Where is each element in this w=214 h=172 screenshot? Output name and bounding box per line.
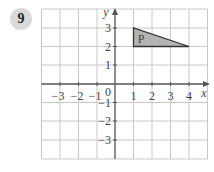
x-tick-label: −2 bbox=[71, 89, 84, 103]
y-tick-label: −2 bbox=[98, 114, 111, 128]
x-tick-label: 3 bbox=[168, 89, 174, 103]
y-tick-label: 1 bbox=[105, 58, 111, 72]
y-tick-label: 2 bbox=[105, 40, 111, 54]
y-tick-label: −3 bbox=[98, 133, 111, 147]
y-axis-label: y bbox=[102, 5, 109, 19]
y-tick-label: −1 bbox=[98, 96, 111, 110]
x-tick-label: 2 bbox=[149, 89, 155, 103]
coordinate-grid: −3 −2 −1 0 1 2 3 4 x 3 2 1 −1 −2 −3 y P bbox=[0, 0, 214, 172]
axes bbox=[42, 10, 209, 159]
x-tick-label: −3 bbox=[52, 89, 65, 103]
shape-label: P bbox=[138, 32, 145, 46]
y-tick-label: 3 bbox=[105, 21, 111, 35]
x-axis-label: x bbox=[200, 86, 207, 100]
x-tick-label: 1 bbox=[131, 89, 137, 103]
x-tick-label: 4 bbox=[186, 89, 192, 103]
